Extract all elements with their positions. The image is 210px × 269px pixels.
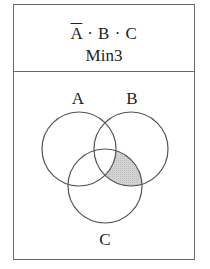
set-b-label: B [126,89,137,108]
shaded-region [0,0,210,269]
set-a-label: A [72,89,85,108]
venn-diagram: A B C [0,0,210,269]
set-c-label: C [99,230,110,249]
